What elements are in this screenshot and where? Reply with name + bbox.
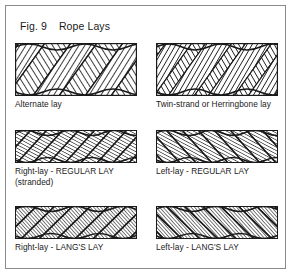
- caption-alternate-lay: Alternate lay: [15, 99, 137, 110]
- diagram-left-lay-regular-lay: Left-lay - REGULAR LAY: [156, 130, 278, 177]
- caption-right-lay-langs-lay: Right-lay - LANG'S LAY: [15, 242, 137, 253]
- diagram-alternate-lay: Alternate lay: [15, 43, 137, 110]
- caption-left-lay-langs-lay: Left-lay - LANG'S LAY: [156, 242, 278, 253]
- rope-illustration-left-lay-langs-lay: [156, 206, 278, 239]
- caption-left-lay-regular-lay: Left-lay - REGULAR LAY: [156, 166, 278, 177]
- rope-illustration-left-lay-regular-lay: [156, 130, 278, 163]
- rope-illustration-alternate-lay: [15, 43, 137, 96]
- diagram-left-lay-langs-lay: Left-lay - LANG'S LAY: [156, 206, 278, 253]
- caption-right-lay-regular-lay: Right-lay - REGULAR LAY (stranded): [15, 166, 137, 187]
- rope-illustration-right-lay-langs-lay: [15, 206, 137, 239]
- figure-frame: Fig. 9 Rope Lays: [5, 5, 286, 269]
- diagram-right-lay-langs-lay: Right-lay - LANG'S LAY: [15, 206, 137, 253]
- diagram-twin-strand-herringbone-lay: Twin-strand or Herringbone lay: [156, 43, 278, 110]
- figure-title: Fig. 9 Rope Lays: [20, 20, 110, 32]
- rope-illustration-right-lay-regular-lay: [15, 130, 137, 163]
- caption-twin-strand-herringbone-lay: Twin-strand or Herringbone lay: [156, 99, 278, 110]
- diagram-right-lay-regular-lay: Right-lay - REGULAR LAY (stranded): [15, 130, 137, 187]
- rope-illustration-twin-strand-herringbone-lay: [156, 43, 278, 96]
